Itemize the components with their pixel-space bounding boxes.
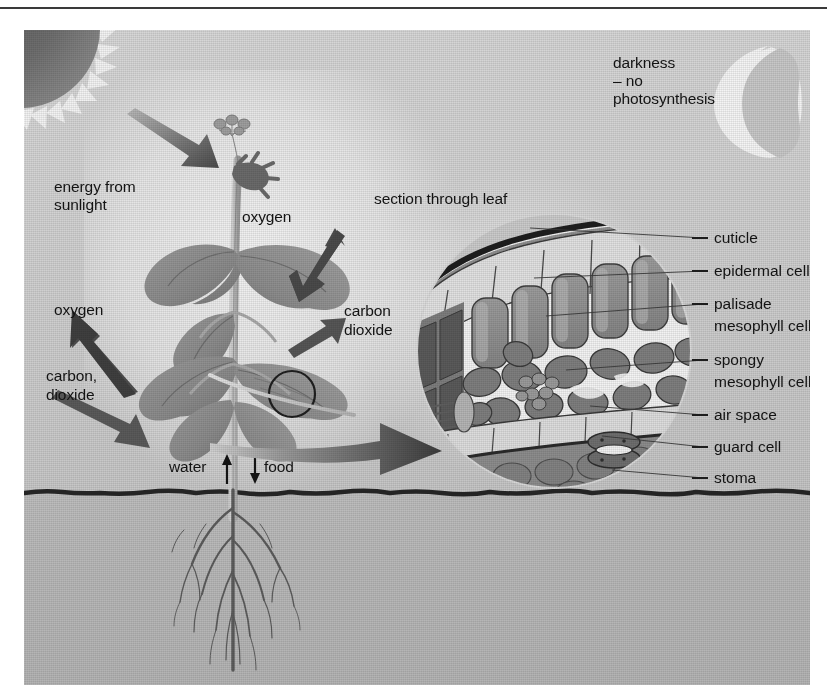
top-rule-divider	[0, 7, 827, 9]
root-system	[154, 490, 424, 685]
figure-root: energy from sunlight darkness – no photo…	[0, 0, 827, 700]
sunlight-label-line2: sunlight	[54, 196, 107, 214]
oxygen-arrow-top	[279, 226, 349, 306]
oxygen-arrow-left	[60, 308, 140, 398]
darkness-label-line3: photosynthesis	[613, 90, 715, 108]
inset-leader-lines	[494, 220, 719, 495]
label-spongy-mesophyll-cell-line2: mesophyll cell	[714, 373, 810, 390]
label-palisade-mesophyll-cell-line1: palisade	[714, 295, 772, 312]
label-spongy-mesophyll-cell-line1: spongy	[714, 351, 764, 368]
darkness-label-line2: – no	[613, 72, 643, 90]
illustration-panel: energy from sunlight darkness – no photo…	[24, 30, 810, 685]
water-label: water	[169, 458, 206, 476]
oxygen-label-top: oxygen	[242, 208, 291, 226]
inset-title: section through leaf	[374, 190, 507, 208]
carbon-dioxide-label-right-line1: carbon	[344, 302, 391, 320]
carbon-dioxide-label-right-line2: dioxide	[344, 321, 392, 339]
label-air-space: air space	[714, 406, 777, 423]
oxygen-label-left: oxygen	[54, 301, 103, 319]
label-epidermal-cell: epidermal cell	[714, 262, 810, 279]
carbon-dioxide-label-left-line1: carbon,	[46, 367, 97, 385]
label-guard-cell: guard cell	[714, 438, 781, 455]
label-palisade-mesophyll-cell-line2: mesophyll cell	[714, 317, 810, 334]
darkness-label-line1: darkness	[613, 54, 675, 72]
carbon-dioxide-label-left-line2: dioxide	[46, 386, 94, 404]
label-cuticle: cuticle	[714, 229, 758, 246]
label-stoma: stoma	[714, 469, 756, 486]
